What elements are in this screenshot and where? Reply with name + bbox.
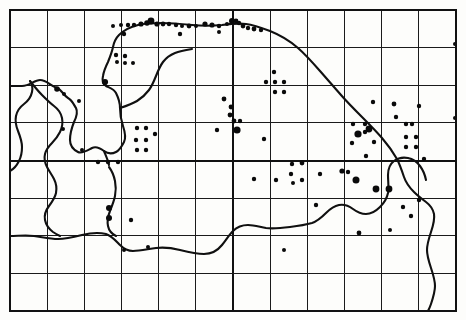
record-dot	[417, 104, 421, 108]
record-dot	[132, 23, 136, 27]
record-dot	[116, 160, 120, 164]
record-dot	[262, 137, 266, 141]
record-dot	[102, 79, 108, 85]
record-dot	[80, 148, 84, 152]
record-dot	[252, 27, 257, 32]
record-dot	[289, 172, 293, 176]
record-dot	[144, 148, 148, 152]
record-dot	[148, 18, 155, 25]
record-dot	[106, 205, 112, 211]
record-dot	[401, 205, 405, 209]
record-dot	[404, 122, 408, 126]
record-dot	[314, 203, 318, 207]
record-dot	[259, 28, 263, 32]
record-dot	[272, 70, 276, 74]
record-dot	[167, 22, 171, 26]
record-dot	[373, 186, 380, 193]
record-dot	[291, 181, 295, 185]
record-dot	[153, 132, 157, 136]
record-dot	[106, 215, 112, 221]
record-dot	[252, 177, 256, 181]
record-dot	[282, 248, 286, 252]
record-dot	[414, 145, 418, 149]
record-dot	[131, 61, 135, 65]
record-dot	[111, 24, 115, 28]
map-canvas	[0, 0, 466, 320]
record-dot	[225, 22, 229, 26]
distribution-map-figure	[0, 0, 466, 320]
record-dot	[233, 126, 240, 133]
record-dot	[264, 80, 268, 84]
record-dot	[414, 135, 418, 139]
record-dot	[228, 113, 233, 118]
record-dot	[138, 21, 143, 26]
record-dot	[388, 228, 392, 232]
record-dot	[202, 21, 207, 26]
record-dot	[129, 218, 133, 222]
record-dot	[54, 86, 60, 92]
record-dot	[372, 140, 376, 144]
record-dot	[404, 145, 408, 149]
record-dot	[410, 122, 414, 126]
record-dot	[274, 178, 278, 182]
record-dot	[363, 122, 367, 126]
record-dot	[273, 90, 277, 94]
record-dot	[115, 60, 119, 64]
record-dot	[364, 154, 368, 158]
record-dot	[187, 24, 192, 29]
record-dot	[232, 119, 237, 124]
record-dot	[96, 160, 100, 164]
record-dot	[357, 231, 362, 236]
record-dot	[394, 115, 398, 119]
record-dot	[61, 127, 65, 131]
record-dot	[290, 162, 294, 166]
record-dot	[350, 141, 354, 145]
record-dot	[217, 30, 221, 34]
record-dot	[114, 53, 118, 57]
record-dot	[161, 22, 166, 27]
record-dot	[222, 97, 227, 102]
record-dot	[241, 24, 246, 29]
record-dot	[282, 90, 286, 94]
record-dot	[209, 22, 214, 27]
record-dot	[123, 54, 127, 58]
record-dot	[123, 61, 127, 65]
record-dot	[392, 102, 397, 107]
record-dot	[318, 172, 322, 176]
record-dot	[178, 32, 182, 36]
record-dot	[144, 126, 148, 130]
record-dot	[386, 186, 393, 193]
record-dot	[146, 245, 150, 249]
record-dot	[122, 32, 126, 36]
record-dot	[404, 135, 408, 139]
record-dot	[422, 157, 426, 161]
record-dot	[237, 21, 241, 25]
record-dot	[229, 105, 234, 110]
record-dot	[346, 170, 350, 174]
record-dot	[354, 130, 361, 137]
record-dot	[238, 119, 242, 123]
record-dot	[122, 248, 126, 252]
record-dot	[194, 24, 198, 28]
record-dot	[282, 80, 286, 84]
record-dot	[174, 23, 178, 27]
record-dot	[134, 138, 138, 142]
record-dot	[300, 161, 305, 166]
record-dot	[180, 24, 184, 28]
record-dot	[353, 177, 360, 184]
record-dot	[273, 80, 277, 84]
record-dot	[77, 99, 81, 103]
record-dot	[135, 148, 139, 152]
record-dot	[154, 21, 159, 26]
record-dot	[339, 168, 344, 173]
record-dot	[217, 24, 221, 28]
record-dot	[126, 23, 130, 27]
record-dot	[351, 122, 355, 126]
record-dot	[246, 26, 250, 30]
record-dot	[62, 92, 66, 96]
record-dot	[135, 126, 139, 130]
record-dot	[409, 214, 413, 218]
record-dot	[417, 198, 421, 202]
record-dot	[300, 178, 304, 182]
record-dot	[119, 23, 123, 27]
